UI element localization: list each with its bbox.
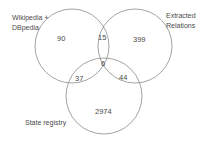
- venn-diagram: Wikipedia + DBpedia Extracted Relations …: [0, 0, 207, 141]
- label-state-registry: State registry: [25, 119, 67, 127]
- circle-state-registry: [66, 58, 142, 134]
- count-wiki-state: 37: [75, 74, 83, 83]
- label-extracted-line2: Relations: [166, 22, 196, 29]
- label-extracted-line1: Extracted: [166, 12, 196, 19]
- count-extracted-state: 44: [119, 73, 127, 82]
- label-wikipedia-line1: Wikipedia +: [12, 14, 48, 22]
- count-state-only: 2974: [95, 107, 112, 116]
- count-all-three: 6: [101, 59, 105, 68]
- count-wikipedia-only: 90: [57, 34, 65, 43]
- count-extracted-only: 399: [133, 35, 146, 44]
- count-wiki-extracted: 15: [98, 33, 106, 42]
- label-wikipedia-line2: DBpedia: [12, 24, 39, 32]
